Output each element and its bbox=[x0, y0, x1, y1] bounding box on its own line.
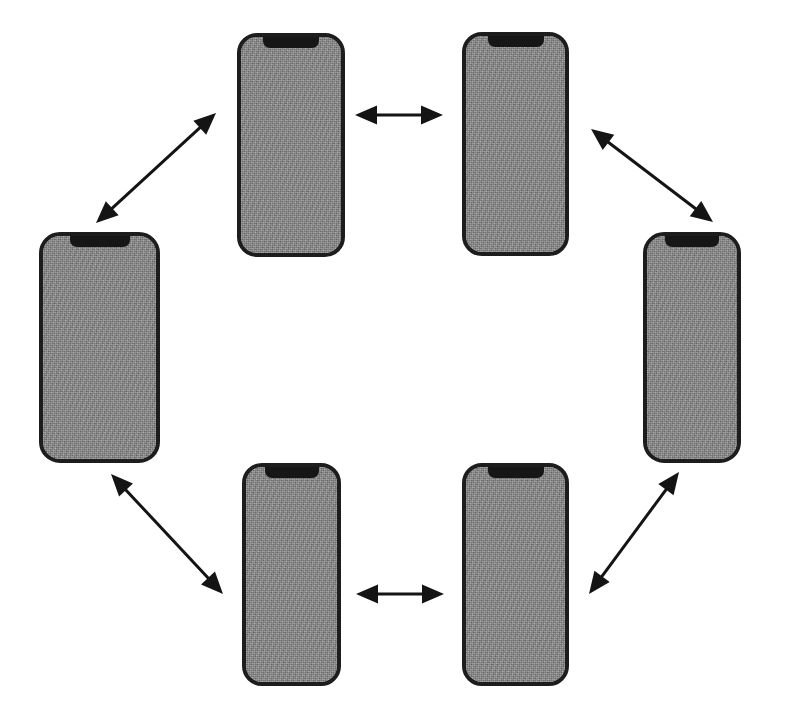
device-screen bbox=[43, 236, 156, 459]
arrow-shaft bbox=[605, 140, 698, 211]
connection-upper-left bbox=[66, 83, 246, 253]
arrow-head-start bbox=[355, 106, 377, 125]
arrow-head-end bbox=[422, 585, 444, 604]
device-notch bbox=[263, 37, 319, 48]
arrow-head-start bbox=[589, 571, 610, 594]
device-top-left bbox=[237, 33, 345, 257]
arrow-head-start bbox=[591, 129, 614, 150]
device-screen bbox=[241, 37, 341, 253]
arrow-head-start bbox=[356, 585, 378, 604]
connection-lower-left bbox=[81, 444, 253, 624]
arrow-head-end bbox=[193, 113, 216, 135]
device-top-right bbox=[462, 32, 569, 256]
arrow-shaft bbox=[109, 125, 202, 211]
device-notch bbox=[488, 36, 544, 47]
arrow-head-start bbox=[111, 474, 133, 497]
connection-upper-right bbox=[561, 99, 743, 252]
device-bottom-left bbox=[242, 463, 341, 686]
connection-bottom bbox=[326, 564, 474, 624]
device-notch bbox=[488, 467, 544, 478]
diagram-canvas bbox=[0, 0, 791, 722]
device-bottom-right bbox=[462, 463, 569, 686]
device-right bbox=[643, 232, 741, 463]
arrow-head-end bbox=[421, 106, 443, 125]
device-screen bbox=[466, 467, 565, 682]
arrow-shaft bbox=[600, 487, 669, 580]
device-notch bbox=[665, 236, 719, 247]
device-left bbox=[39, 232, 160, 463]
device-screen bbox=[647, 236, 737, 459]
arrow-head-end bbox=[690, 201, 713, 222]
arrow-head-end bbox=[201, 571, 223, 594]
device-screen bbox=[466, 36, 565, 252]
arrow-shaft bbox=[123, 487, 210, 581]
arrow-head-start bbox=[96, 201, 119, 223]
connection-top bbox=[325, 85, 473, 145]
arrow-head-end bbox=[658, 472, 679, 495]
device-notch bbox=[70, 236, 130, 247]
device-screen bbox=[246, 467, 337, 682]
connection-lower-right bbox=[559, 442, 709, 624]
device-notch bbox=[265, 467, 319, 478]
